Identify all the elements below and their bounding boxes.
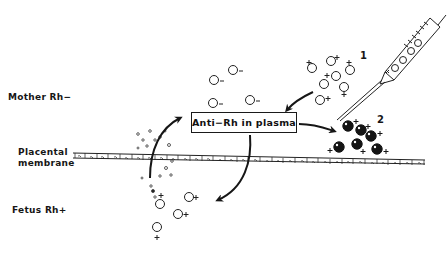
fetus-rh-label: Fetus Rh+ <box>12 205 67 215</box>
syringe-icon <box>337 15 446 121</box>
placental-membrane-label: Placental membrane <box>18 147 75 169</box>
injected-rh-positive-cells <box>307 55 355 105</box>
fetal-cell-fragments <box>137 130 174 199</box>
placental-label-line1: Placental <box>18 147 75 158</box>
step-2-marker: 2 <box>377 114 384 125</box>
anti-rh-plasma-text: Anti−Rh in plasma <box>192 117 296 128</box>
arrow-antibodies-to-coated-cells <box>299 124 334 131</box>
mother-rh-label: Mother Rh− <box>8 92 71 102</box>
arrow-injection-to-antibodies <box>287 92 313 110</box>
anti-rh-plasma-box: Anti−Rh in plasma <box>191 112 297 133</box>
arrow-antibodies-to-fetus <box>218 135 250 200</box>
fetus-rh-positive-cells <box>153 193 199 241</box>
placental-label-line2: membrane <box>18 158 75 169</box>
mother-rh-negative-cells <box>209 66 261 108</box>
step-1-marker: 1 <box>360 50 367 61</box>
arrows <box>150 92 334 200</box>
